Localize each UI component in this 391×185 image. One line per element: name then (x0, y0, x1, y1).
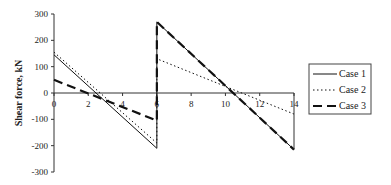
y-axis-label: Shear force, kN (13, 59, 24, 126)
legend: Case 1Case 2Case 3 (309, 64, 371, 114)
y-tick-label: 200 (35, 35, 49, 45)
series-line-case-3 (54, 22, 294, 150)
x-tick-label: 8 (189, 99, 194, 109)
x-tick-label: 2 (86, 99, 91, 109)
series-line-case-2 (54, 52, 294, 143)
x-tick-label: 10 (221, 99, 231, 109)
y-tick-label: 0 (44, 88, 49, 98)
series-line-case-1 (54, 22, 294, 150)
legend-label: Case 1 (339, 68, 366, 79)
legend-label: Case 2 (339, 84, 366, 95)
y-tick-label: -100 (32, 114, 49, 124)
y-tick-label: 300 (35, 9, 49, 19)
x-tick-label: 0 (52, 99, 57, 109)
series-lines (54, 22, 294, 150)
y-tick-label: 100 (35, 62, 49, 72)
y-tick-label: -200 (32, 141, 49, 151)
shear-force-chart: 3002001000-100-200-30002468101214Shear f… (0, 0, 391, 185)
y-tick-label: -300 (32, 167, 49, 177)
legend-label: Case 3 (339, 100, 366, 111)
